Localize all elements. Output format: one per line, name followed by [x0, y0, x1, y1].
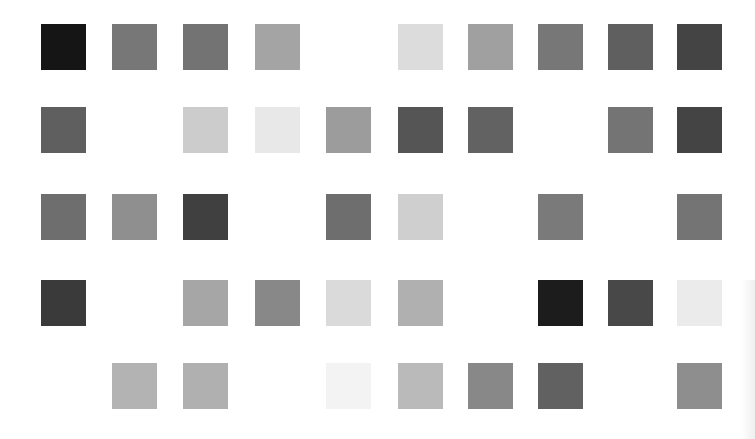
gray-square [398, 280, 443, 326]
gray-square [677, 107, 722, 153]
gray-square [255, 280, 300, 326]
gray-square [326, 107, 371, 153]
gray-square [468, 107, 513, 153]
gray-square [398, 363, 443, 409]
gray-square [112, 24, 157, 70]
gray-square [326, 280, 371, 326]
gray-square [398, 194, 443, 240]
gray-square [538, 194, 583, 240]
gray-square [41, 24, 86, 70]
gray-square [112, 363, 157, 409]
gray-square [538, 363, 583, 409]
gray-square [538, 280, 583, 326]
gray-square [183, 107, 228, 153]
gray-square [677, 363, 722, 409]
gray-square-grid [0, 0, 755, 439]
gray-square [255, 107, 300, 153]
gray-square [608, 107, 653, 153]
gray-square [608, 24, 653, 70]
gray-square [183, 24, 228, 70]
gray-square [677, 194, 722, 240]
gray-square [183, 363, 228, 409]
gray-square [41, 280, 86, 326]
gray-square [255, 24, 300, 70]
gray-square [112, 194, 157, 240]
gray-square [608, 280, 653, 326]
gray-square [398, 107, 443, 153]
gray-square [326, 194, 371, 240]
gray-square [468, 363, 513, 409]
gray-square [41, 194, 86, 240]
gray-square [183, 280, 228, 326]
gray-square [183, 194, 228, 240]
gray-square [538, 24, 583, 70]
right-edge-shadow [741, 280, 755, 439]
gray-square [41, 107, 86, 153]
gray-square [468, 24, 513, 70]
gray-square [677, 24, 722, 70]
gray-square [677, 280, 722, 326]
gray-square [398, 24, 443, 70]
gray-square [326, 363, 371, 409]
